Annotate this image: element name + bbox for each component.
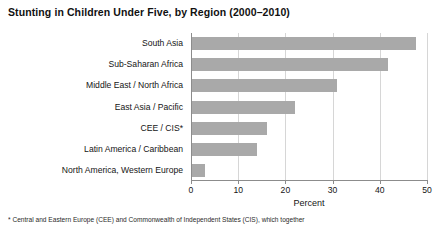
x-axis-tick-label: 0 — [189, 185, 194, 195]
category-axis-labels: South AsiaSub-Saharan AfricaMiddle East … — [0, 33, 188, 181]
category-label: Latin America / Caribbean — [84, 143, 183, 156]
x-axis-line — [191, 180, 428, 181]
x-axis-tick-label: 10 — [233, 185, 243, 195]
gridline — [427, 33, 428, 180]
x-axis-tick-label: 50 — [422, 185, 432, 195]
x-axis-tickmark — [285, 181, 286, 184]
x-axis-tick-labels: 01020304050 — [191, 185, 439, 199]
bar — [192, 79, 337, 92]
plot-wrapper: South AsiaSub-Saharan AfricaMiddle East … — [0, 33, 439, 185]
x-axis-tickmark — [191, 181, 192, 184]
bar — [192, 101, 295, 114]
bar — [192, 143, 257, 156]
category-label: Middle East / North Africa — [86, 79, 183, 92]
bar — [192, 164, 205, 177]
category-label: CEE / CIS* — [140, 122, 183, 135]
x-axis-tickmark — [333, 181, 334, 184]
chart-title: Stunting in Children Under Five, by Regi… — [8, 6, 290, 18]
chart-footnote: * Central and Eastern Europe (CEE) and C… — [8, 216, 433, 224]
x-axis-tickmark — [238, 181, 239, 184]
x-axis-title: Percent — [191, 198, 427, 208]
gridline — [380, 33, 381, 180]
x-axis-tick-label: 30 — [328, 185, 338, 195]
category-label: North America, Western Europe — [62, 164, 183, 177]
category-label: South Asia — [142, 37, 183, 50]
bar — [192, 58, 388, 71]
x-axis-tick-label: 20 — [281, 185, 291, 195]
x-axis-tick-label: 40 — [375, 185, 385, 195]
chart-figure: Stunting in Children Under Five, by Regi… — [0, 0, 439, 225]
bar — [192, 122, 267, 135]
bar — [192, 37, 416, 50]
plot-area — [191, 33, 427, 181]
gridline — [333, 33, 334, 180]
category-label: Sub-Saharan Africa — [108, 58, 183, 71]
x-axis-tickmark — [380, 181, 381, 184]
category-label: East Asia / Pacific — [115, 101, 183, 114]
x-axis-tickmark — [427, 181, 428, 184]
